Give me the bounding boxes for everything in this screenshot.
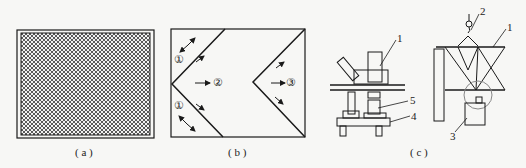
zone-label-1-bottom: ① [174,99,184,112]
caption-b: ( b ) [228,146,246,158]
part-label-3: 3 [450,130,456,142]
zone-label-2: ② [213,76,223,89]
panel-a-mesh-panel [17,30,154,138]
panel-b-zone-diagram [171,29,305,137]
caption-a: ( a ) [75,146,93,158]
caption-c: ( c ) [410,146,428,158]
panel-c-right-truss [434,14,505,125]
figure-canvas [0,0,526,168]
part-label-5: 5 [410,94,416,106]
part-label-1-left: 1 [397,32,403,44]
part-label-1-right: 1 [507,21,513,33]
zone-label-1-top: ① [174,53,184,66]
part-label-4: 4 [411,110,417,122]
zone-label-3: ③ [286,76,296,89]
panel-c-left-apparatus [330,52,405,136]
part-label-2: 2 [480,5,486,17]
